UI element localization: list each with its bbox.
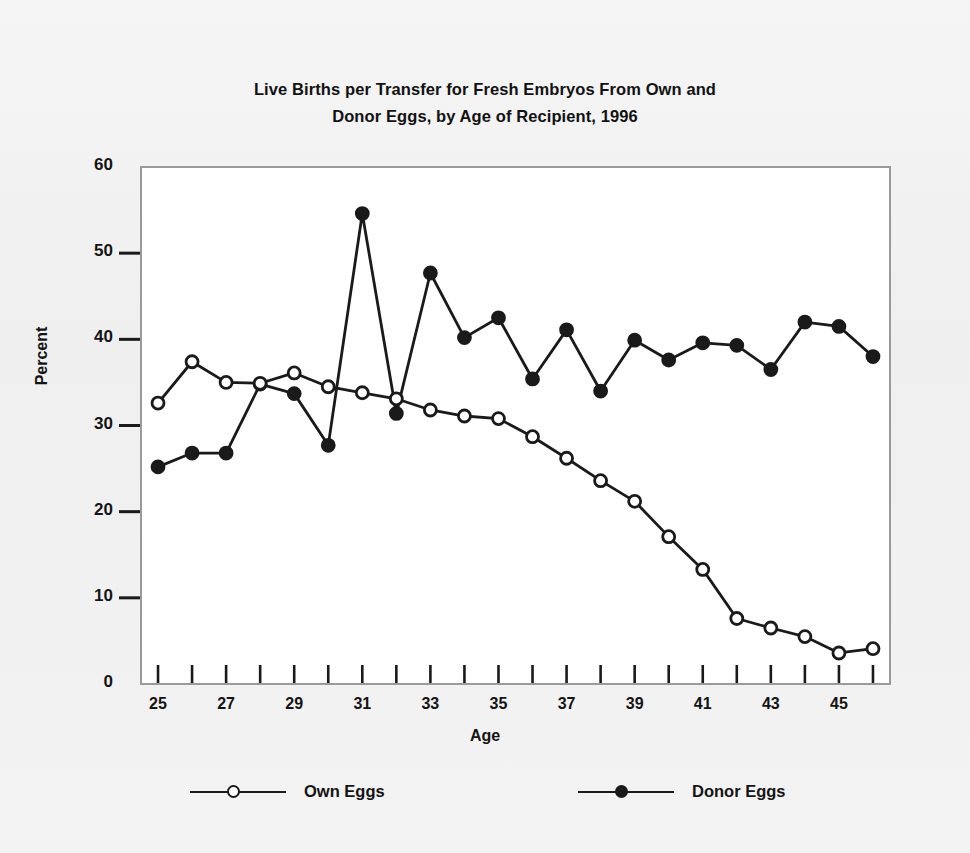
data-point-marker — [152, 397, 164, 409]
data-point-marker — [492, 312, 504, 324]
x-axis-tick-label: 45 — [819, 695, 859, 713]
data-point-marker — [765, 622, 777, 634]
data-point-marker — [594, 385, 606, 397]
legend-marker-open-circle-icon — [190, 784, 286, 800]
x-axis-tick-label: 37 — [547, 695, 587, 713]
data-point-marker — [799, 631, 811, 643]
legend-item-donor-eggs: Donor Eggs — [578, 782, 786, 801]
x-axis-tick-label: 41 — [683, 695, 723, 713]
data-point-marker — [254, 377, 266, 389]
data-point-marker — [629, 495, 641, 507]
data-point-marker — [186, 356, 198, 368]
legend-label-own-eggs: Own Eggs — [304, 782, 385, 801]
legend-label-donor-eggs: Donor Eggs — [692, 782, 786, 801]
data-point-marker — [220, 447, 232, 459]
data-point-marker — [697, 563, 709, 575]
data-point-marker — [288, 387, 300, 399]
legend-item-own-eggs: Own Eggs — [190, 782, 385, 801]
data-point-marker — [628, 334, 640, 346]
data-point-marker — [356, 207, 368, 219]
y-axis-title: Percent — [33, 296, 51, 416]
y-axis-tick-label: 40 — [67, 327, 113, 347]
data-point-marker — [765, 363, 777, 375]
data-point-marker — [867, 643, 879, 655]
data-point-marker — [595, 475, 607, 487]
data-point-marker — [833, 320, 845, 332]
data-point-marker — [526, 373, 538, 385]
line-chart-svg — [0, 0, 970, 853]
plot-area-container — [0, 0, 970, 853]
chart-legend: Own Eggs Donor Eggs — [0, 778, 970, 818]
x-axis-tick-label: 33 — [410, 695, 450, 713]
plot-background — [141, 167, 890, 684]
y-axis-tick-label: 50 — [67, 241, 113, 261]
data-point-marker — [697, 337, 709, 349]
data-point-marker — [833, 647, 845, 659]
data-point-marker — [663, 531, 675, 543]
x-axis-title: Age — [0, 727, 970, 745]
data-point-marker — [288, 367, 300, 379]
data-point-marker — [220, 376, 232, 388]
data-point-marker — [356, 387, 368, 399]
x-axis-tick-label: 25 — [138, 695, 178, 713]
data-point-marker — [458, 410, 470, 422]
x-axis-tick-label: 27 — [206, 695, 246, 713]
data-point-marker — [424, 267, 436, 279]
x-axis-tick-label: 29 — [274, 695, 314, 713]
data-point-marker — [458, 331, 470, 343]
y-axis-tick-label: 10 — [67, 586, 113, 606]
x-axis-tick-label: 35 — [478, 695, 518, 713]
data-point-marker — [867, 350, 879, 362]
y-axis-tick-label: 30 — [67, 414, 113, 434]
x-axis-tick-label: 31 — [342, 695, 382, 713]
data-point-marker — [663, 354, 675, 366]
data-point-marker — [322, 439, 334, 451]
y-axis-tick-label: 60 — [67, 155, 113, 175]
data-point-marker — [322, 381, 334, 393]
y-axis-tick-label: 20 — [67, 500, 113, 520]
data-point-marker — [561, 452, 573, 464]
data-point-marker — [424, 404, 436, 416]
data-point-marker — [731, 339, 743, 351]
x-axis-tick-label: 43 — [751, 695, 791, 713]
data-point-marker — [731, 613, 743, 625]
legend-marker-filled-circle-icon — [578, 784, 674, 800]
data-point-marker — [152, 461, 164, 473]
data-point-marker — [390, 393, 402, 405]
chart-figure: Live Births per Transfer for Fresh Embry… — [0, 0, 970, 853]
y-axis-ticks — [119, 253, 140, 598]
data-point-marker — [560, 324, 572, 336]
data-point-marker — [527, 431, 539, 443]
data-point-marker — [492, 413, 504, 425]
data-point-marker — [799, 316, 811, 328]
y-axis-tick-label: 0 — [67, 672, 113, 692]
data-point-marker — [390, 407, 402, 419]
x-axis-tick-label: 39 — [615, 695, 655, 713]
data-point-marker — [186, 447, 198, 459]
